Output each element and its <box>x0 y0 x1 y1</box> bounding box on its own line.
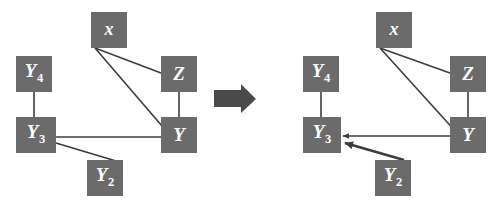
node-y4-left: Y4 <box>16 56 52 92</box>
node-sub-y3-left: 3 <box>39 132 45 146</box>
node-label-x-right: x <box>390 20 399 38</box>
node-sub-y2-left: 2 <box>108 175 114 189</box>
node-y3-right: Y3 <box>303 117 341 153</box>
node-label-y3-right: Y3 <box>313 122 331 145</box>
edge-y3-y2 <box>56 143 116 161</box>
node-label-y-left: Y <box>173 125 185 144</box>
node-sub-y2-right: 2 <box>396 175 402 189</box>
node-label-y3-left: Y3 <box>27 122 45 145</box>
rightwards-arrow-icon <box>214 84 256 113</box>
node-sub-y4-left: 4 <box>37 71 43 85</box>
node-sub-y4-right: 4 <box>324 71 330 85</box>
node-z-left: Z <box>161 56 197 92</box>
causal-graph-figure: x Y4 Z Y3 Y Y2 x Y4 Z Y3 Y <box>0 0 499 207</box>
node-y2-right: Y2 <box>375 160 411 196</box>
node-sub-y3-right: 3 <box>325 132 331 146</box>
node-label-x-left: x <box>105 20 114 38</box>
node-label-y4-right: Y4 <box>312 61 330 84</box>
node-x-right: x <box>376 12 412 48</box>
node-x-left: x <box>91 12 127 48</box>
edge-y2-to-y3-directed <box>345 143 404 160</box>
node-label-y2-right: Y2 <box>384 165 402 188</box>
edges-layer <box>0 0 499 207</box>
node-label-z-left: Z <box>173 64 185 83</box>
edge-x-y <box>95 48 168 133</box>
node-y3-left: Y3 <box>16 117 56 153</box>
node-z-right: Z <box>450 56 486 92</box>
node-label-z-right: Z <box>462 64 474 83</box>
node-y4-right: Y4 <box>303 56 339 92</box>
node-base-y3-left: Y <box>27 121 39 142</box>
node-y-right: Y <box>450 117 486 153</box>
edge-x-y-right <box>380 48 457 133</box>
node-label-y4-left: Y4 <box>25 61 43 84</box>
node-label-y-right: Y <box>462 125 474 144</box>
node-label-y2-left: Y2 <box>96 165 114 188</box>
node-base-y4-left: Y <box>25 60 37 81</box>
node-y2-left: Y2 <box>87 160 123 196</box>
node-base-y2-left: Y <box>96 164 108 185</box>
transition-arrow <box>214 84 256 113</box>
node-y-left: Y <box>161 117 197 153</box>
node-base-y2-right: Y <box>384 164 396 185</box>
right-graph-edges <box>321 48 468 160</box>
node-base-y4-right: Y <box>312 60 324 81</box>
node-base-y3-right: Y <box>313 121 325 142</box>
